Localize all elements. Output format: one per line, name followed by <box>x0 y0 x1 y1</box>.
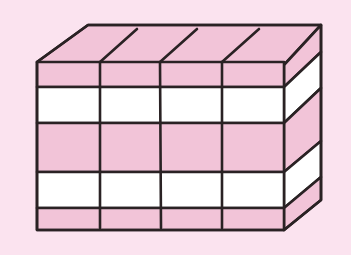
cube-prism-figure <box>0 0 351 255</box>
